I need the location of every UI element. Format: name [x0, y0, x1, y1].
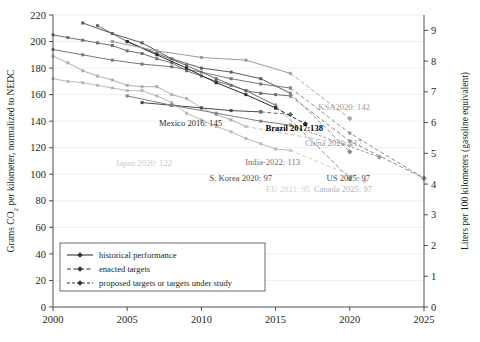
series-point: [111, 87, 114, 90]
y-tick-label-right: 0: [431, 302, 436, 313]
series-point: [348, 132, 351, 135]
series-point: [126, 40, 129, 43]
series-point: [259, 120, 262, 123]
series-point: [230, 109, 233, 112]
series-point: [111, 40, 114, 43]
legend-label-0: historical performance: [99, 250, 177, 260]
y-tick-label-right: 1: [431, 271, 436, 282]
series-point: [66, 61, 69, 64]
series-point: [244, 59, 247, 62]
series-point: [230, 118, 233, 121]
series-point: [274, 93, 277, 96]
chart-container: KSA2020: 142Mexico 2016: 145Brazil 2017:…: [0, 0, 480, 342]
series-point: [155, 49, 158, 52]
series-point: [141, 89, 144, 92]
series-point: [289, 87, 292, 90]
series-point: [96, 24, 99, 27]
series-point: [111, 59, 114, 62]
series-point: [185, 67, 188, 70]
series-line-eu: [53, 79, 290, 151]
series-point: [81, 39, 84, 42]
y-tick-label-right: 7: [431, 86, 436, 97]
series-point: [200, 56, 203, 59]
series-point: [96, 84, 99, 87]
y-axis-title-right: Liters per 100 kilometers (gasoline equi…: [460, 72, 471, 250]
series-point: [96, 75, 99, 78]
series-point: [141, 52, 144, 55]
legend-label-1: enacted targets: [99, 264, 151, 274]
y-axis-title-left: Grams CO2 per kilometer, normalized to N…: [6, 70, 20, 253]
series-point: [259, 92, 262, 95]
series-point: [244, 89, 247, 92]
series-line-canada: [53, 50, 290, 88]
series-point: [185, 97, 188, 100]
series-point: [155, 94, 158, 97]
x-tick-label: 2000: [43, 314, 64, 325]
series-point: [274, 104, 277, 107]
series-point: [141, 101, 144, 104]
y-tick-label-left: 160: [30, 89, 46, 100]
series-point: [155, 53, 158, 56]
series-point: [215, 81, 218, 84]
series-point: [289, 149, 292, 152]
x-tick-label: 2010: [191, 314, 212, 325]
series-point: [259, 142, 262, 145]
annotation-label: US 2025: 97: [327, 173, 371, 183]
series-point: [81, 53, 84, 56]
series-point: [126, 84, 129, 87]
series-point: [155, 85, 158, 88]
series-point: [200, 67, 203, 70]
series-point: [274, 106, 277, 109]
y-tick-label-right: 8: [431, 56, 436, 67]
series-point: [141, 63, 144, 66]
annotation-label: Mexico 2016: 145: [159, 118, 222, 128]
series-point: [185, 64, 188, 67]
series-point: [244, 137, 247, 140]
y-tick-label-right: 9: [431, 25, 436, 36]
series-point: [170, 104, 173, 107]
series-point: [96, 41, 99, 44]
annotation-label: Brazil 2017:138: [265, 123, 323, 133]
annotation-label: Canada 2025: 97: [314, 184, 373, 194]
co2-standards-line-chart: KSA2020: 142Mexico 2016: 145Brazil 2017:…: [0, 0, 480, 342]
y-tick-label-left: 100: [30, 169, 46, 180]
y-tick-label-left: 40: [36, 249, 47, 260]
series-point: [185, 112, 188, 115]
series-point: [126, 94, 129, 97]
y-tick-label-right: 2: [431, 240, 436, 251]
series-line-mexico-target: [261, 112, 291, 115]
y-tick-label-left: 0: [41, 302, 46, 313]
series-point: [170, 93, 173, 96]
series-point: [170, 101, 173, 104]
x-tick-label: 2020: [339, 314, 360, 325]
series-point: [126, 89, 129, 92]
series-point: [111, 44, 114, 47]
series-point: [81, 81, 84, 84]
series-point: [289, 92, 292, 95]
annotation-label: EU 2021: 95: [266, 184, 310, 194]
x-tick-label: 2015: [265, 314, 286, 325]
y-tick-label-right: 4: [431, 179, 437, 190]
annotation-label: India-2022: 113: [245, 157, 300, 167]
y-tick-label-right: 5: [431, 148, 436, 159]
series-point: [289, 72, 292, 75]
series-point: [259, 83, 262, 86]
annotation-label: KSA2020: 142: [318, 102, 370, 112]
series-point: [81, 69, 84, 72]
annotation-label: China 2020: 117: [305, 138, 363, 148]
x-tick-label: 2025: [414, 314, 435, 325]
series-point: [126, 49, 129, 52]
series-point: [274, 148, 277, 151]
y-tick-label-left: 180: [30, 63, 46, 74]
y-tick-label-left: 60: [36, 222, 47, 233]
series-point: [215, 77, 218, 80]
y-tick-label-left: 140: [30, 116, 46, 127]
y-tick-label-left: 80: [36, 195, 47, 206]
annotation-label: Japan 2020: 122: [116, 158, 172, 168]
x-tick-label: 2005: [117, 314, 138, 325]
series-point: [244, 93, 247, 96]
series-point: [259, 110, 262, 113]
series-point: [66, 80, 69, 83]
y-tick-label-right: 3: [431, 209, 436, 220]
series-point: [111, 79, 114, 82]
